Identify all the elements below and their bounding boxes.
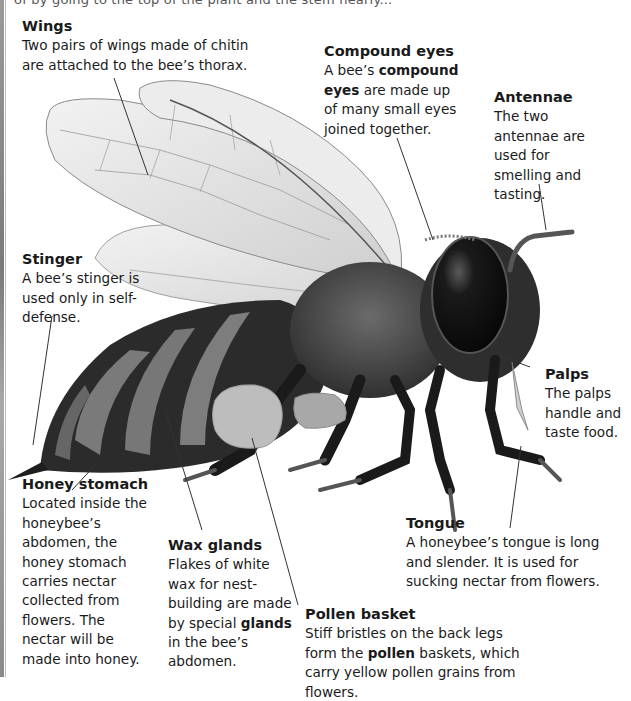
label-tongue: Tongue A honeybee’s tongue is long and s… xyxy=(406,514,621,592)
palps-shape xyxy=(512,362,528,430)
label-title: Honey stomach xyxy=(22,475,152,494)
label-text: A honeybee’s tongue is long and slender.… xyxy=(406,534,600,589)
label-antennae: Antennae The two antennae are used for s… xyxy=(494,88,606,204)
label-title: Palps xyxy=(545,365,630,384)
label-text: The two antennae are used for smelling a… xyxy=(494,108,585,202)
label-title: Stinger xyxy=(22,250,142,269)
compound-eye xyxy=(432,237,508,353)
leader-compound-eyes xyxy=(397,138,433,240)
label-text: Located inside the honeybee’s abdomen, t… xyxy=(22,495,147,666)
label-title: Pollen basket xyxy=(305,605,530,624)
leader-stinger xyxy=(33,316,52,445)
label-text: The palps handle and taste food. xyxy=(545,385,621,440)
label-title: Tongue xyxy=(406,514,621,533)
label-title: Compound eyes xyxy=(324,42,464,61)
label-compound-eyes: Compound eyes A bee’s compound eyes are … xyxy=(324,42,464,139)
label-stinger: Stinger A bee’s stinger is used only in … xyxy=(22,250,142,328)
label-title: Antennae xyxy=(494,88,606,107)
label-title: Wax glands xyxy=(168,536,292,555)
label-wings: Wings Two pairs of wings made of chitin … xyxy=(22,17,262,75)
label-honey-stomach: Honey stomach Located inside the honeybe… xyxy=(22,475,152,669)
label-text: Two pairs of wings made of chitin are at… xyxy=(22,37,248,72)
label-pollen-basket: Pollen basket Stiff bristles on the back… xyxy=(305,605,530,701)
label-title: Wings xyxy=(22,17,262,36)
bold-term: glands xyxy=(241,615,292,631)
head xyxy=(420,236,540,382)
label-palps: Palps The palps handle and taste food. xyxy=(545,365,630,443)
bold-term: pollen xyxy=(368,645,415,661)
label-text: A bee’s stinger is used only in self-def… xyxy=(22,270,139,325)
label-wax-glands: Wax glands Flakes of white wax for nest-… xyxy=(168,536,292,672)
